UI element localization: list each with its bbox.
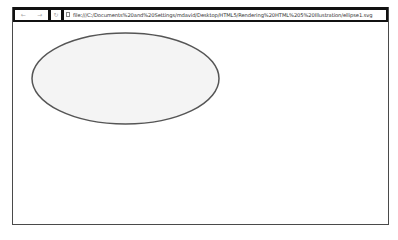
ellipse-shape (32, 33, 219, 124)
browser-window: ← → ↻ file:///C:/Documents%20and%20Setti… (12, 7, 389, 225)
page-content (13, 22, 388, 224)
svg-canvas (1, 0, 398, 240)
